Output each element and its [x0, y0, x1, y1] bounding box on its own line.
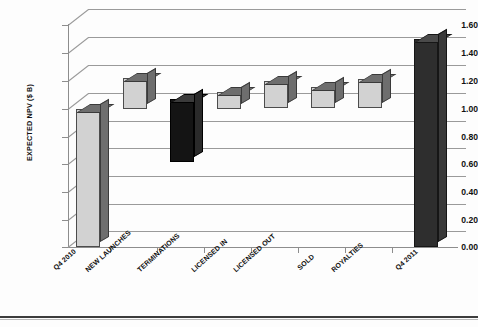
- bar-q4-2011[interactable]: [414, 39, 438, 247]
- gridline-0.20: [88, 204, 466, 205]
- y-tick-label-1.60: 1.60: [444, 20, 478, 30]
- bar-front-face: [170, 99, 194, 162]
- bar-side-face: [194, 89, 203, 157]
- x-tick-mark-2: [204, 248, 205, 253]
- bar-front-face: [358, 79, 382, 108]
- bar-side-face: [438, 29, 447, 242]
- bar-front-face: [123, 78, 147, 109]
- x-tick-mark-6: [392, 248, 393, 253]
- bar-front-face: [264, 81, 288, 108]
- y-tick-label-1.00: 1.00: [444, 104, 478, 114]
- page-divider-shadow: [0, 319, 478, 320]
- bar-front-face: [76, 109, 100, 247]
- plot-area: EXPECTED NPV ($ B) 1.60 1.40 1.20 1.00 0…: [0, 0, 478, 327]
- gridline-1.20: [88, 65, 466, 66]
- bar-side-face: [100, 99, 109, 242]
- gridline-0.80: [88, 121, 466, 122]
- gridline-1.60: [88, 9, 466, 10]
- y-tick-label-0.80: 0.80: [444, 132, 478, 142]
- gridline-depth-1.60: [68, 9, 89, 26]
- bar-side-face: [335, 77, 344, 103]
- gridline-depth-1.40: [68, 37, 89, 54]
- bar-licensed-in[interactable]: [217, 92, 241, 109]
- bar-side-face: [241, 82, 250, 104]
- bar-royalties[interactable]: [358, 79, 382, 108]
- y-tick-label-0.60: 0.60: [444, 159, 478, 169]
- y-tick-label-1.20: 1.20: [444, 76, 478, 86]
- bar-new-launches[interactable]: [123, 78, 147, 109]
- bar-licensed-out[interactable]: [264, 81, 288, 108]
- x-axis-label-terminations: TERMINATIONS: [136, 232, 181, 273]
- bar-sold[interactable]: [311, 87, 335, 108]
- x-axis-label-licensed-out: LICENSED OUT: [232, 232, 276, 273]
- x-axis-label-licensed-in: LICENSED IN: [190, 238, 228, 274]
- bar-terminations[interactable]: [170, 99, 194, 162]
- x-axis-label-q4-2010: Q4 2010: [52, 248, 77, 272]
- chart-figure: EXPECTED NPV ($ B) 1.60 1.40 1.20 1.00 0…: [0, 0, 478, 327]
- x-axis-label-sold: SOLD: [296, 253, 315, 271]
- bar-front-face: [414, 39, 438, 247]
- bar-side-face: [288, 71, 297, 103]
- gridline-0.60: [88, 148, 466, 149]
- gridline-floor-back: [88, 231, 466, 232]
- y-axis-title: EXPECTED NPV ($ B): [25, 48, 34, 198]
- x-tick-mark-4: [298, 248, 299, 253]
- bar-side-face: [147, 68, 156, 104]
- y-tick-label-1.40: 1.40: [444, 48, 478, 58]
- y-tick-label-0.20: 0.20: [444, 215, 478, 225]
- gridline-depth-1.20: [68, 65, 89, 82]
- gridline-0.40: [88, 176, 466, 177]
- y-tick-label-0.40: 0.40: [444, 187, 478, 197]
- page-divider: [0, 316, 478, 318]
- y-axis-line: [68, 24, 69, 248]
- bar-q4-2010[interactable]: [76, 109, 100, 247]
- x-axis-label-q4-2011: Q4 2011: [394, 248, 419, 271]
- bar-side-face: [382, 69, 391, 103]
- gridline-1.40: [88, 37, 466, 38]
